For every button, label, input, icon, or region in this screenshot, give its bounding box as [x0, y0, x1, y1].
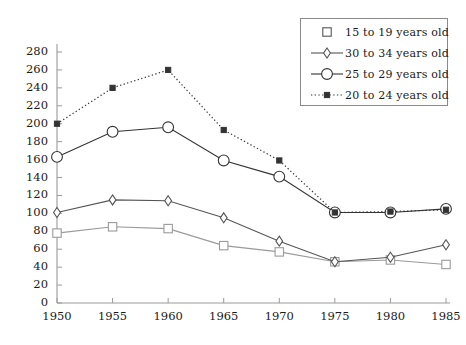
- y-axis-tick-label: 220: [0, 98, 48, 112]
- x-axis-tick-label: 1970: [249, 309, 309, 323]
- legend-item: 25 to 29 years old: [301, 64, 449, 84]
- y-axis-tick-label: 280: [0, 44, 48, 58]
- legend-item: 30 to 34 years old: [301, 43, 449, 63]
- chart-container: 15 to 19 years old 30 to 34 years old 25…: [0, 0, 466, 345]
- legend-marker-square: [301, 22, 345, 42]
- legend-marker-diamond: [301, 43, 345, 63]
- x-axis-tick-label: 1985: [416, 309, 466, 323]
- legend-marker-dotted-square: [301, 85, 345, 105]
- y-axis-tick-label: 20: [0, 277, 48, 291]
- y-axis-tick-label: 160: [0, 152, 48, 166]
- y-axis-tick-label: 80: [0, 223, 48, 237]
- legend-label: 15 to 19 years old: [345, 26, 449, 39]
- x-axis-tick-label: 1955: [83, 309, 143, 323]
- y-axis-tick-label: 120: [0, 187, 48, 201]
- y-axis-tick-label: 140: [0, 170, 48, 184]
- y-axis-tick-label: 180: [0, 134, 48, 148]
- x-axis-tick-label: 1975: [305, 309, 365, 323]
- x-axis-tick-label: 1950: [27, 309, 87, 323]
- y-axis-tick-label: 60: [0, 241, 48, 255]
- legend-item: 20 to 24 years old: [301, 85, 449, 105]
- y-axis-tick-label: 0: [0, 295, 48, 309]
- legend-label: 20 to 24 years old: [345, 89, 449, 102]
- y-axis-tick-label: 100: [0, 205, 48, 219]
- x-axis-tick-label: 1960: [138, 309, 198, 323]
- legend-marker-circle: [301, 64, 345, 84]
- y-axis-tick-label: 200: [0, 116, 48, 130]
- y-axis-tick-label: 40: [0, 259, 48, 273]
- x-axis-tick-label: 1980: [360, 309, 420, 323]
- y-axis-tick-label: 240: [0, 80, 48, 94]
- legend-item: 15 to 19 years old: [301, 22, 449, 42]
- legend-label: 25 to 29 years old: [345, 68, 449, 81]
- y-axis-tick-label: 260: [0, 62, 48, 76]
- chart-legend: 15 to 19 years old 30 to 34 years old 25…: [300, 18, 448, 106]
- x-axis-tick-label: 1965: [194, 309, 254, 323]
- legend-label: 30 to 34 years old: [345, 47, 449, 60]
